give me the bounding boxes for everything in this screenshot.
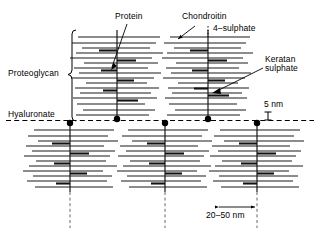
attachment-dot [205,116,211,122]
top-aggregate-left [70,30,163,121]
attachment-dot [114,116,120,122]
proteoglycan-aggregate-figure: Protein Chondroitin 4–sulphate Keratan s… [0,0,320,242]
chondroitin-label: Chondroitin [182,12,227,22]
proteoglycan-label: Proteoglycan [8,69,59,79]
keratan-arrowhead [212,88,221,94]
top-aggregate-right [162,30,253,121]
proteoglycan-brace [68,30,76,121]
diagram-canvas [0,0,320,242]
keratan-sulphate-label-line2: sulphate [265,64,298,74]
protein-label: Protein [115,12,143,22]
bottom-aggregate-middle [117,122,212,228]
scale-5nm-label: 5 nm [264,100,283,110]
chondroitin-4-sulphate-label: 4–sulphate [213,24,256,34]
scale-20-50nm-label: 20–50 nm [206,211,245,221]
vertical-scale-bar [265,112,272,120]
bottom-aggregate-left [23,122,118,228]
hyaluronate-label: Hyaluronate [8,110,55,120]
